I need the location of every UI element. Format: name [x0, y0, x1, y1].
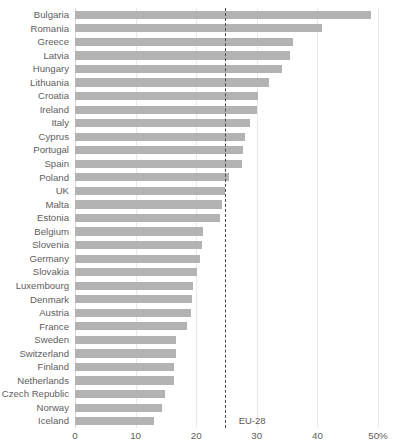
bar-czech-republic	[75, 390, 165, 398]
y-label-estonia: Estonia	[37, 211, 69, 225]
bar-denmark	[75, 295, 192, 303]
y-label-romania: Romania	[31, 22, 69, 36]
bar-row	[75, 401, 378, 415]
bar-portugal	[75, 146, 243, 154]
bar-row	[75, 374, 378, 388]
bar-latvia	[75, 51, 290, 59]
bar-spain	[75, 160, 242, 168]
gridline-50	[378, 8, 379, 428]
bar-row	[75, 225, 378, 239]
y-label-finland: Finland	[38, 360, 69, 374]
y-label-switzerland: Switzerland	[19, 347, 69, 361]
y-label-denmark: Denmark	[30, 293, 69, 307]
y-label-malta: Malta	[46, 198, 69, 212]
y-axis-labels: BulgariaRomaniaGreeceLatviaHungaryLithua…	[0, 8, 72, 428]
y-label-latvia: Latvia	[43, 49, 69, 63]
bar-estonia	[75, 214, 220, 222]
bar-row	[75, 238, 378, 252]
bar-netherlands	[75, 376, 174, 384]
y-label-spain: Spain	[44, 157, 69, 171]
y-label-belgium: Belgium	[34, 225, 69, 239]
bar-row	[75, 414, 378, 428]
bar-greece	[75, 38, 293, 46]
eu28-reference-line	[225, 8, 226, 428]
bar-bulgaria	[75, 11, 371, 19]
bar-austria	[75, 309, 191, 317]
y-label-sweden: Sweden	[34, 333, 69, 347]
bar-row	[75, 130, 378, 144]
y-label-uk: UK	[56, 184, 69, 198]
y-label-ireland: Ireland	[40, 103, 69, 117]
bar-rows	[75, 8, 378, 428]
y-label-iceland: Iceland	[38, 414, 69, 428]
bar-row	[75, 306, 378, 320]
y-label-france: France	[39, 320, 69, 334]
x-tick-50: 50%	[368, 430, 388, 441]
y-label-lithuania: Lithuania	[30, 76, 69, 90]
y-label-italy: Italy	[51, 116, 69, 130]
y-label-poland: Poland	[39, 171, 69, 185]
bar-row	[75, 184, 378, 198]
bar-lithuania	[75, 78, 269, 86]
bar-row	[75, 279, 378, 293]
bar-row	[75, 76, 378, 90]
bar-belgium	[75, 227, 203, 235]
bar-hungary	[75, 65, 282, 73]
y-label-luxembourg: Luxembourg	[16, 279, 69, 293]
y-label-hungary: Hungary	[33, 62, 69, 76]
x-tick-30: 30	[251, 430, 262, 441]
bar-norway	[75, 404, 162, 412]
bar-row	[75, 360, 378, 374]
bar-row	[75, 35, 378, 49]
bar-row	[75, 49, 378, 63]
x-tick-10: 10	[130, 430, 141, 441]
bar-uk	[75, 187, 225, 195]
bar-finland	[75, 363, 174, 371]
y-label-greece: Greece	[38, 35, 69, 49]
bar-malta	[75, 200, 222, 208]
bar-row	[75, 211, 378, 225]
y-label-slovakia: Slovakia	[33, 265, 69, 279]
x-tick-0: 0	[72, 430, 77, 441]
plot-area	[75, 8, 378, 428]
bar-row	[75, 116, 378, 130]
bar-row	[75, 62, 378, 76]
bar-sweden	[75, 336, 176, 344]
bar-ireland	[75, 106, 257, 114]
bar-row	[75, 293, 378, 307]
bar-germany	[75, 255, 200, 263]
y-label-cyprus: Cyprus	[39, 130, 69, 144]
bar-romania	[75, 24, 322, 32]
bar-france	[75, 322, 187, 330]
x-tick-40: 40	[312, 430, 323, 441]
bar-row	[75, 103, 378, 117]
bar-row	[75, 22, 378, 36]
bar-slovakia	[75, 268, 197, 276]
y-label-netherlands: Netherlands	[17, 374, 69, 388]
bar-switzerland	[75, 349, 176, 357]
bar-row	[75, 198, 378, 212]
y-label-portugal: Portugal	[33, 143, 69, 157]
y-label-norway: Norway	[36, 401, 69, 415]
y-label-bulgaria: Bulgaria	[34, 8, 69, 22]
bar-croatia	[75, 92, 258, 100]
bar-row	[75, 320, 378, 334]
bar-poland	[75, 173, 229, 181]
x-axis: 01020304050%	[75, 430, 378, 448]
y-label-germany: Germany	[30, 252, 69, 266]
eu28-reference-label: EU-28	[239, 415, 266, 426]
bar-cyprus	[75, 133, 245, 141]
bar-row	[75, 347, 378, 361]
x-tick-20: 20	[191, 430, 202, 441]
bar-slovenia	[75, 241, 202, 249]
y-label-austria: Austria	[39, 306, 69, 320]
bar-row	[75, 387, 378, 401]
bar-row	[75, 89, 378, 103]
bar-row	[75, 171, 378, 185]
bar-row	[75, 143, 378, 157]
bar-row	[75, 8, 378, 22]
y-label-slovenia: Slovenia	[32, 238, 69, 252]
y-label-croatia: Croatia	[38, 89, 69, 103]
bar-row	[75, 157, 378, 171]
y-label-czech-republic: Czech Republic	[2, 387, 69, 401]
